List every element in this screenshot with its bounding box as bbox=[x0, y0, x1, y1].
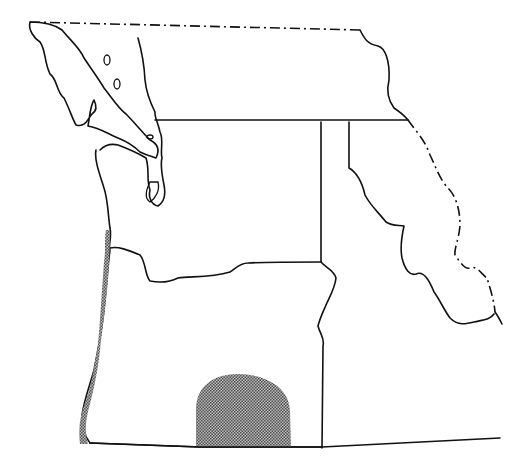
montana-border bbox=[408, 120, 495, 312]
shaded-range-south-oregon bbox=[196, 374, 291, 447]
wa-oregon-border bbox=[110, 247, 321, 282]
shaded-range-coastal-strip bbox=[79, 230, 110, 444]
idaho-montana-border bbox=[349, 122, 494, 324]
gulf-island bbox=[114, 79, 120, 89]
wa-idaho-border bbox=[318, 122, 336, 448]
whidbey-island bbox=[146, 182, 158, 202]
canada-border bbox=[30, 22, 360, 30]
san-juan-island bbox=[104, 55, 110, 65]
idaho-southeast-border bbox=[495, 312, 502, 324]
northern-idaho-border bbox=[360, 30, 408, 120]
range-map bbox=[0, 0, 527, 466]
